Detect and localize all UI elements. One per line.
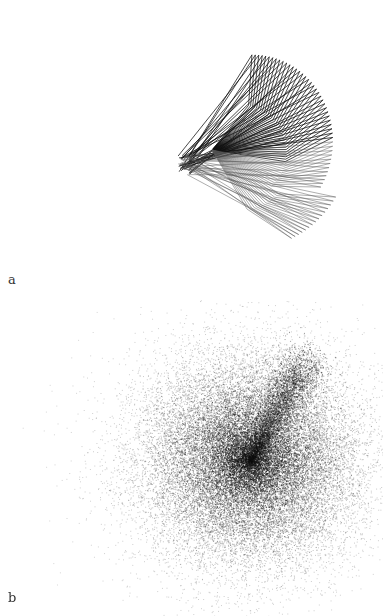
panel-b-scatter <box>0 300 383 616</box>
panel-b: b <box>0 300 383 616</box>
panel-a: a <box>0 0 383 300</box>
panel-b-label: b <box>8 590 16 605</box>
panel-a-label: a <box>8 272 16 287</box>
panel-a-drawing <box>0 0 383 300</box>
